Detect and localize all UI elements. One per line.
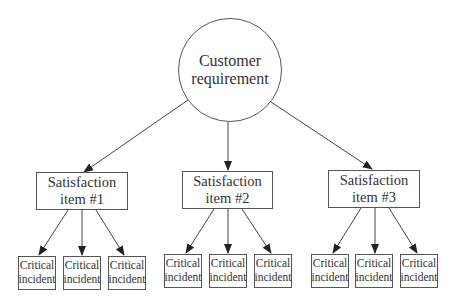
incident-line1: Critical	[65, 259, 100, 273]
item-label-line2: item #1	[60, 191, 104, 208]
incident-line1: Critical	[313, 257, 348, 271]
item-label-line1: Satisfaction	[340, 172, 408, 189]
critical-incident-1-1: Critical incident	[18, 256, 56, 290]
incident-line2: incident	[355, 271, 392, 285]
critical-incident-2-1: Critical incident	[164, 254, 202, 288]
incident-line1: Critical	[110, 259, 145, 273]
critical-incident-1-2: Critical incident	[63, 256, 101, 290]
incident-line1: Critical	[402, 257, 437, 271]
critical-incident-3-3: Critical incident	[400, 254, 438, 288]
incident-line2: incident	[311, 271, 348, 285]
incident-line2: incident	[63, 273, 100, 287]
item-label-line1: Satisfaction	[193, 173, 261, 190]
incident-line2: incident	[164, 271, 201, 285]
satisfaction-item-1: Satisfaction item #1	[36, 172, 128, 210]
critical-incident-3-1: Critical incident	[311, 254, 349, 288]
critical-incident-3-2: Critical incident	[355, 254, 393, 288]
satisfaction-item-3: Satisfaction item #3	[328, 170, 420, 208]
item-label-line2: item #2	[206, 190, 250, 207]
incident-line2: incident	[400, 271, 437, 285]
customer-requirement-node: Customer requirement	[178, 18, 282, 122]
incident-line2: incident	[254, 271, 291, 285]
root-line2: requirement	[191, 70, 268, 88]
critical-incident-1-3: Critical incident	[108, 256, 146, 290]
incident-line1: Critical	[256, 257, 291, 271]
incident-line2: incident	[18, 273, 55, 287]
incident-line1: Critical	[357, 257, 392, 271]
satisfaction-item-2: Satisfaction item #2	[182, 171, 273, 209]
incident-line2: incident	[108, 273, 145, 287]
item-label-line2: item #3	[352, 189, 396, 206]
root-line1: Customer	[199, 52, 261, 70]
incident-line1: Critical	[20, 259, 55, 273]
incident-line1: Critical	[211, 257, 246, 271]
incident-line1: Critical	[166, 257, 201, 271]
critical-incident-2-2: Critical incident	[209, 254, 247, 288]
critical-incident-2-3: Critical incident	[254, 254, 292, 288]
incident-line2: incident	[209, 271, 246, 285]
item-label-line1: Satisfaction	[48, 174, 116, 191]
